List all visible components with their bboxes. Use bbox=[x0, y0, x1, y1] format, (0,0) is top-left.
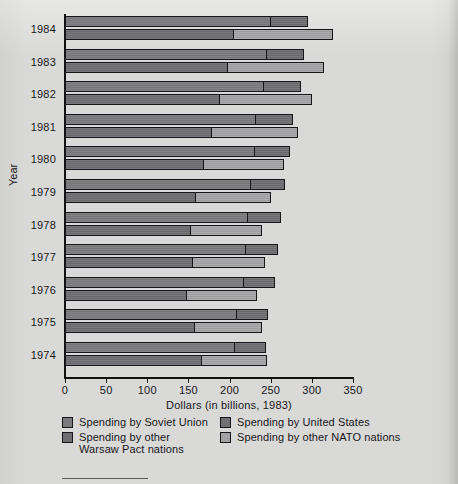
y-axis-title: Year bbox=[7, 164, 19, 186]
x-tick-mark bbox=[271, 377, 272, 383]
segment-united-states bbox=[66, 356, 201, 365]
legend-item: Spending by United States bbox=[220, 416, 445, 428]
segment-other-warsaw-pact bbox=[255, 115, 292, 124]
segment-other-warsaw-pact bbox=[254, 147, 289, 156]
bar-nato bbox=[65, 127, 298, 138]
bar-warsaw-pact bbox=[65, 81, 301, 92]
legend-item: Spending by other Warsaw Pact nations bbox=[62, 431, 227, 455]
x-tick-mark bbox=[106, 377, 107, 383]
year-label: 1979 bbox=[0, 186, 56, 198]
segment-soviet-union bbox=[66, 245, 245, 254]
segment-other-warsaw-pact bbox=[266, 50, 303, 59]
segment-soviet-union bbox=[66, 17, 270, 26]
plot-area: 050100150200250300350 198419831982198119… bbox=[0, 0, 458, 484]
year-label: 1981 bbox=[0, 121, 56, 133]
chart-page: 050100150200250300350 198419831982198119… bbox=[0, 0, 458, 484]
x-tick-label: 250 bbox=[261, 384, 280, 396]
bar-warsaw-pact bbox=[65, 244, 278, 255]
footer-rule bbox=[62, 478, 148, 479]
year-label: 1984 bbox=[0, 23, 56, 35]
segment-other-nato bbox=[219, 95, 310, 104]
bar-nato bbox=[65, 29, 333, 40]
legend-label: Spending by United States bbox=[237, 416, 370, 428]
segment-united-states bbox=[66, 193, 195, 202]
segment-soviet-union bbox=[66, 180, 250, 189]
bar-warsaw-pact bbox=[65, 179, 285, 190]
segment-other-warsaw-pact bbox=[245, 245, 277, 254]
bar-nato bbox=[65, 257, 265, 268]
bar-warsaw-pact bbox=[65, 342, 266, 353]
x-tick-label: 350 bbox=[344, 384, 363, 396]
x-tick-label: 100 bbox=[138, 384, 157, 396]
segment-soviet-union bbox=[66, 147, 254, 156]
year-label: 1978 bbox=[0, 219, 56, 231]
legend-column-right: Spending by United StatesSpending by oth… bbox=[220, 416, 445, 446]
x-axis-title: Dollars (in billions, 1983) bbox=[0, 399, 458, 411]
legend-item: Spending by Soviet Union bbox=[62, 416, 227, 428]
segment-united-states bbox=[66, 258, 192, 267]
x-tick-label: 0 bbox=[62, 384, 68, 396]
segment-united-states bbox=[66, 128, 211, 137]
legend-swatch-icon bbox=[220, 417, 231, 428]
x-tick-label: 300 bbox=[302, 384, 321, 396]
segment-united-states bbox=[66, 95, 219, 104]
x-tick-mark bbox=[188, 377, 189, 383]
segment-united-states bbox=[66, 30, 233, 39]
segment-soviet-union bbox=[66, 310, 236, 319]
segment-united-states bbox=[66, 291, 186, 300]
legend-swatch-icon bbox=[220, 432, 231, 443]
segment-other-nato bbox=[194, 323, 262, 332]
x-tick-label: 50 bbox=[100, 384, 113, 396]
bar-warsaw-pact bbox=[65, 309, 268, 320]
x-tick-mark bbox=[230, 377, 231, 383]
segment-soviet-union bbox=[66, 213, 247, 222]
legend-label: Spending by other Warsaw Pact nations bbox=[79, 431, 184, 455]
year-label: 1983 bbox=[0, 56, 56, 68]
bar-nato bbox=[65, 62, 324, 73]
legend-label: Spending by other NATO nations bbox=[237, 431, 400, 443]
x-axis-line bbox=[65, 377, 353, 379]
legend-swatch-icon bbox=[62, 417, 73, 428]
segment-other-nato bbox=[201, 356, 266, 365]
segment-soviet-union bbox=[66, 82, 263, 91]
bar-nato bbox=[65, 225, 262, 236]
segment-other-nato bbox=[203, 160, 283, 169]
segment-united-states bbox=[66, 160, 203, 169]
segment-other-nato bbox=[233, 30, 332, 39]
bar-warsaw-pact bbox=[65, 16, 308, 27]
bar-nato bbox=[65, 94, 312, 105]
bar-warsaw-pact bbox=[65, 146, 290, 157]
bar-nato bbox=[65, 355, 267, 366]
segment-other-warsaw-pact bbox=[263, 82, 300, 91]
segment-united-states bbox=[66, 63, 227, 72]
segment-united-states bbox=[66, 226, 190, 235]
segment-other-warsaw-pact bbox=[236, 310, 267, 319]
year-label: 1976 bbox=[0, 284, 56, 296]
legend-column-left: Spending by Soviet UnionSpending by othe… bbox=[62, 416, 227, 458]
bar-warsaw-pact bbox=[65, 49, 304, 60]
segment-other-nato bbox=[186, 291, 256, 300]
x-tick-mark bbox=[353, 377, 354, 383]
segment-other-nato bbox=[190, 226, 262, 235]
bar-nato bbox=[65, 192, 271, 203]
bar-nato bbox=[65, 159, 284, 170]
segment-other-warsaw-pact bbox=[247, 213, 280, 222]
bar-warsaw-pact bbox=[65, 212, 281, 223]
legend-label: Spending by Soviet Union bbox=[79, 416, 208, 428]
x-tick-mark bbox=[65, 377, 66, 383]
bar-warsaw-pact bbox=[65, 114, 293, 125]
x-tick-mark bbox=[147, 377, 148, 383]
segment-other-warsaw-pact bbox=[234, 343, 265, 352]
segment-other-nato bbox=[211, 128, 297, 137]
year-label: 1982 bbox=[0, 88, 56, 100]
legend-swatch-icon bbox=[62, 432, 73, 443]
legend-item: Spending by other NATO nations bbox=[220, 431, 445, 443]
segment-other-nato bbox=[227, 63, 323, 72]
segment-other-nato bbox=[192, 258, 264, 267]
segment-soviet-union bbox=[66, 343, 234, 352]
segment-soviet-union bbox=[66, 278, 243, 287]
segment-united-states bbox=[66, 323, 194, 332]
x-tick-label: 150 bbox=[179, 384, 198, 396]
year-label: 1977 bbox=[0, 251, 56, 263]
segment-other-warsaw-pact bbox=[270, 17, 307, 26]
